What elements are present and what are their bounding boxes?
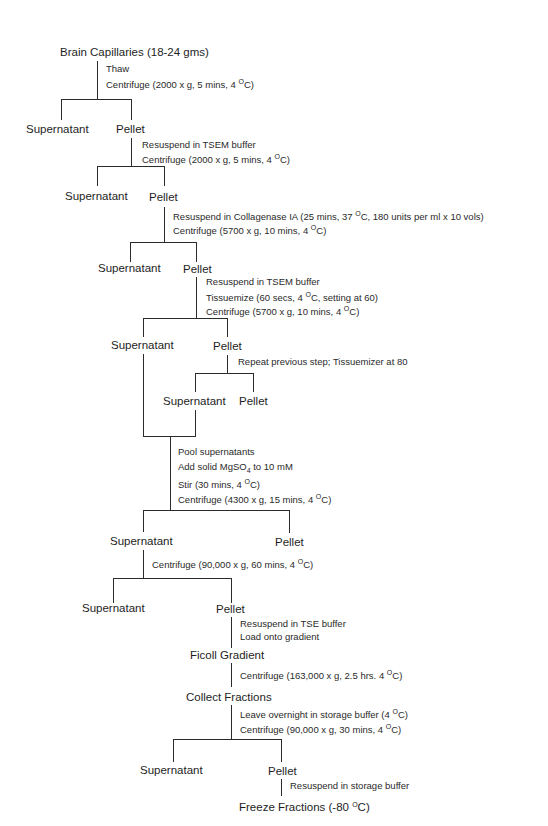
connector-line [131,138,132,166]
step-resuspend-storage: Resuspend in storage buffer [290,781,409,791]
step-centrifuge-3: Centrifuge (5700 x g, 10 mins, 4 OC) [173,224,326,236]
connector-line [143,318,144,337]
step-centrifuge-2: Centrifuge (2000 x g, 5 mins, 4 OC) [142,153,290,165]
node-supernatant-2: Supernatant [65,191,128,203]
step-centrifuge-7: Centrifuge (163,000 x g, 2.5 hrs. 4 OC) [240,669,402,681]
node-pellet-4: Pellet [213,341,242,353]
connector-line [170,436,171,510]
branch-line [61,99,132,100]
connector-line [195,373,196,392]
node-supernatant-1: Supernatant [26,124,89,136]
step-resuspend-tsem-1: Resuspend in TSEM buffer [142,140,256,150]
step-centrifuge-8: Centrifuge (90,000 x g, 30 mins, 4 OC) [240,723,401,735]
node-pellet-7: Pellet [216,604,245,616]
node-collect-fractions: Collect Fractions [186,692,272,704]
connector-line [281,779,282,796]
step-load-gradient: Load onto gradient [240,632,319,642]
step-stir: Stir (30 mins, 4 OC) [178,478,260,490]
connector-line [195,410,196,437]
connector-line [131,99,132,120]
step-resuspend-tsem-2: Resuspend in TSEM buffer [206,277,320,287]
step-repeat-tissuemizer: Repeat previous step; Tissuemizer at 80 [238,357,408,367]
connector-line [97,166,98,186]
connector-line [231,617,232,648]
end-node-freeze-fractions: Freeze Fractions (-80 OC) [239,801,370,814]
connector-line [227,355,228,373]
connector-line [164,207,165,242]
connector-line [130,242,131,262]
step-centrifuge-6: Centrifuge (90,000 x g, 60 mins, 4 OC) [152,558,313,570]
node-supernatant-3: Supernatant [98,263,161,275]
step-pool-supernatants: Pool supernatants [178,447,255,457]
branch-line [143,318,228,319]
node-supernatant-7: Supernatant [82,603,145,615]
branch-line [195,373,254,374]
step-resuspend-collagenase: Resuspend in Collagenase IA (25 mins, 37… [173,210,484,222]
step-centrifuge-5: Centrifuge (4300 x g, 15 mins, 4 OC) [178,493,331,505]
node-supernatant-6: Supernatant [110,536,173,548]
branch-line [143,510,290,511]
connector-line [231,578,232,603]
node-supernatant-4: Supernatant [111,340,174,352]
step-centrifuge-1: Centrifuge (2000 x g, 5 mins, 4 OC) [106,78,254,90]
branch-line [97,166,165,167]
connector-line [227,318,228,337]
connector-line [196,277,197,318]
connector-line [97,61,98,99]
connector-line [143,510,144,532]
branch-line [173,739,282,740]
branch-line [130,242,197,243]
connector-line [196,242,197,262]
connector-line [253,373,254,392]
step-resuspend-tse: Resuspend in TSE buffer [240,619,346,629]
connector-line [143,354,144,437]
node-pellet-3: Pellet [183,264,212,276]
connector-line [113,578,114,603]
step-add-mgso4: Add solid MgSO4 to 10 mM [178,462,293,474]
connector-line [173,739,174,762]
connector-line [61,99,62,120]
step-thaw: Thaw [106,64,129,74]
node-pellet-8: Pellet [268,766,297,778]
node-pellet-2: Pellet [149,192,178,204]
connector-line [164,166,165,186]
step-leave-overnight: Leave overnight in storage buffer (4 OC) [240,708,408,720]
node-pellet-5: Pellet [239,396,268,408]
connector-line [231,663,232,687]
connector-line [281,739,282,762]
connector-line [231,705,232,739]
step-tissuemize: Tissuemize (60 secs, 4 OC, setting at 60… [206,291,378,303]
connector-line [143,550,144,578]
step-centrifuge-4: Centrifuge (5700 x g, 10 mins, 4 OC) [206,305,359,317]
start-node-brain-capillaries: Brain Capillaries (18-24 gms) [60,47,209,59]
node-pellet-1: Pellet [116,124,145,136]
node-pellet-6: Pellet [275,537,304,549]
branch-line [113,578,232,579]
node-supernatant-8: Supernatant [140,765,203,777]
node-supernatant-5: Supernatant [163,396,226,408]
node-ficoll-gradient: Ficoll Gradient [190,650,264,662]
connector-line [289,510,290,533]
